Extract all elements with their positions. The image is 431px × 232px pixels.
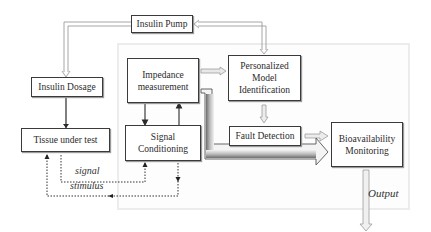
arrow-model-to-pump [194,20,268,54]
personalized-model-line1: Personalized [240,60,289,72]
stimulus-label: stimulus [70,180,103,191]
arrow-impedance-to-model [201,67,226,75]
bioavailability-monitoring-box: Bioavailability Monitoring [331,122,403,167]
signal-conditioning-line1: Signal [151,131,175,143]
arrow-model-to-fault [260,105,268,123]
insulin-pump-label: Insulin Pump [137,18,188,30]
insulin-dosage-label: Insulin Dosage [38,81,95,93]
impedance-measurement-box: Impedance measurement [127,58,199,103]
arrow-pump-to-dosage [62,22,131,77]
fault-detection-box: Fault Detection [229,126,301,146]
signal-conditioning-box: Signal Conditioning [125,125,201,161]
signal-conditioning-line2: Conditioning [138,143,188,155]
signal-label: signal [75,165,99,176]
personalized-model-line3: Identification [239,84,290,96]
arrow-bioavailability-to-output [360,170,372,231]
bioavailability-line1: Bioavailability [339,133,395,145]
tissue-under-test-label: Tissue under test [33,134,97,146]
tissue-under-test-box: Tissue under test [21,128,110,152]
personalized-model-box: Personalized Model Identification [228,55,301,101]
arrows-impedance-signal [143,103,182,125]
bioavailability-line2: Monitoring [345,145,388,157]
personalized-model-line2: Model [252,72,277,84]
insulin-pump-box: Insulin Pump [131,15,193,33]
output-label: Output [368,187,404,199]
impedance-line2: measurement [138,81,189,93]
connectors-layer [0,0,431,232]
insulin-dosage-box: Insulin Dosage [31,77,103,97]
fault-detection-label: Fault Detection [236,130,295,142]
dotted-stimulus-path [47,155,178,196]
impedance-line1: Impedance [142,69,184,81]
